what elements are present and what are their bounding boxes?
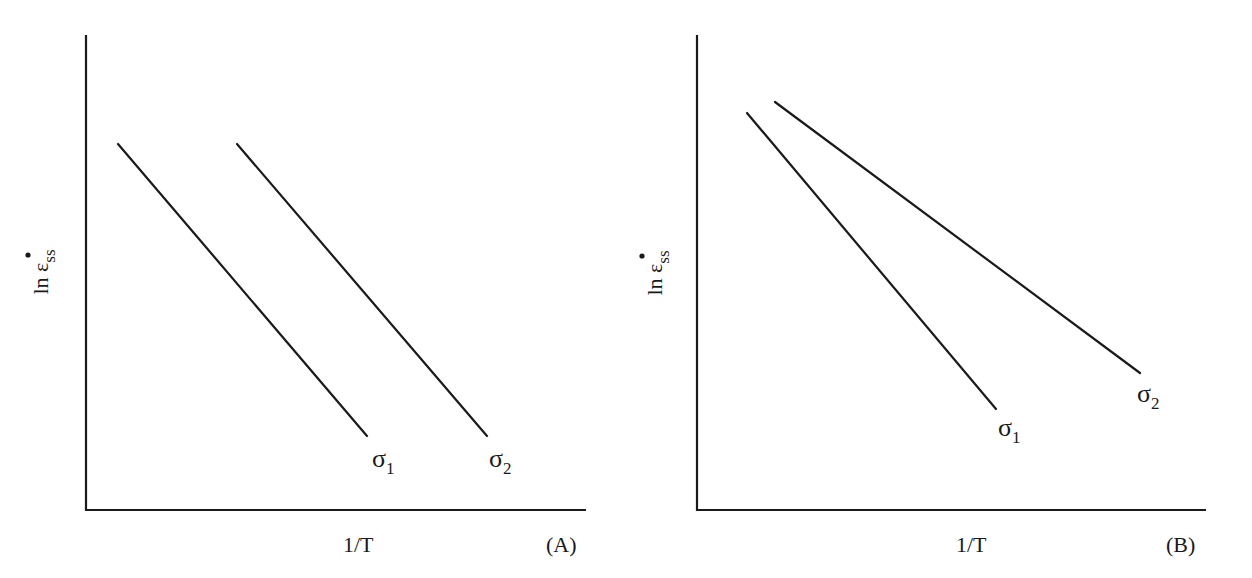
panel-b: σ1 σ2 1/T (B) ln εss <box>639 35 1206 557</box>
panel-b-label: (B) <box>1166 532 1195 557</box>
svg-text:ln εss: ln εss <box>642 250 673 295</box>
panel-a-x-label: 1/T <box>343 532 374 557</box>
dot-accent-icon <box>25 252 30 257</box>
creep-rate-figure: σ1 σ2 1/T (A) ln εss σ1 σ2 1/T (B) ln εs… <box>0 0 1252 578</box>
panel-a-y-label: ln εss <box>25 249 59 294</box>
panel-b-sigma1-label: σ1 <box>998 413 1021 447</box>
panel-b-sigma2-label: σ2 <box>1137 379 1160 413</box>
panel-a-line-sigma2 <box>237 144 487 436</box>
panel-b-line-sigma2 <box>775 102 1140 373</box>
svg-text:ln εss: ln εss <box>28 249 59 294</box>
dot-accent-icon <box>639 253 644 258</box>
panel-b-line-sigma1 <box>747 113 996 409</box>
panel-b-x-label: 1/T <box>956 532 987 557</box>
panel-a-sigma2-label: σ2 <box>489 444 512 478</box>
panel-b-y-label: ln εss <box>639 250 673 295</box>
panel-a-line-sigma1 <box>118 144 367 436</box>
panel-a-label: (A) <box>546 532 577 557</box>
panel-a-sigma1-label: σ1 <box>372 444 395 478</box>
panel-a: σ1 σ2 1/T (A) ln εss <box>25 35 586 557</box>
